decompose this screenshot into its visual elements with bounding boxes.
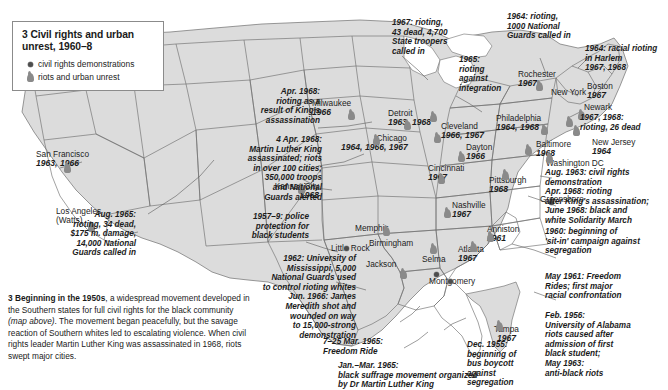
city-name-little-rock: Little Rock <box>331 244 369 253</box>
marker-cincinnati <box>438 170 445 188</box>
legend-item-demonstrations: civil rights demonstrations <box>22 59 154 69</box>
city-years-dayton: 1966 <box>466 151 485 161</box>
figure-caption: 3 Beginning in the 1950s, a widespread m… <box>8 293 254 363</box>
city-years-boston: 1967 <box>587 90 606 100</box>
marker-selma <box>434 263 439 281</box>
city-label-philadelphia: Philadelphia 1964, 1968 <box>496 114 541 133</box>
marker-new-york <box>566 113 573 131</box>
city-years-rochester: 1967 <box>518 78 537 88</box>
city-label-baltimore: Baltimore 1968 <box>536 140 571 159</box>
city-years-new-jersey: 1964 <box>592 146 611 156</box>
city-years-pittsburgh: 1968 <box>489 184 508 194</box>
marker-chicago <box>373 131 380 149</box>
marker-san-francisco <box>64 159 71 177</box>
annotation-mississippi-university: 1962: University of Mississippi, 5,000 N… <box>244 254 356 340</box>
annotation-alabama-university: Feb. 1956: University of Alabama riots c… <box>545 311 661 378</box>
annotation-sit-in-campaign: 1960: beginning of 'sit-in' campaign aga… <box>545 227 667 256</box>
annotation-detroit-riot: 1967: rioting, 43 dead, 4,700 State troo… <box>392 18 492 56</box>
legend-title: 3 Civil rights and urban unrest, 1960–8 <box>22 29 154 53</box>
legend-item-riots: riots and urban unrest <box>22 72 154 82</box>
city-label-washington-dc: Washington DC <box>546 159 604 168</box>
city-years-san-francisco: 1963, 1966 <box>36 158 79 168</box>
annotation-rochester-riot: 1964: rioting, 1000 National Guards call… <box>507 12 605 41</box>
city-label-new-jersey: New Jersey 1964 <box>592 138 635 157</box>
caption-lead: Beginning in the 1950s <box>15 293 105 303</box>
legend-label-demonstrations: civil rights demonstrations <box>38 59 134 69</box>
marker-montgomery <box>448 270 453 288</box>
city-label-nashville: Nashville 1967 <box>452 201 486 220</box>
city-years-nashville: 1967 <box>452 209 471 219</box>
marker-anniston <box>487 228 494 246</box>
caption-number: 3 <box>8 293 13 303</box>
marker-detroit <box>404 116 411 134</box>
marker-little-rock <box>344 237 349 255</box>
marker-nashville <box>444 204 451 222</box>
city-label-newark: Newark <box>584 103 612 112</box>
annotation-washington-dc: Aug. 1963: civil rights demonstration Ap… <box>545 168 668 226</box>
city-label-dayton: Dayton 1966 <box>466 143 492 162</box>
map-legend: 3 Civil rights and urban unrest, 1960–8 … <box>12 21 164 91</box>
marker-milwaukee <box>348 106 355 124</box>
city-label-new-york: New York <box>551 88 586 97</box>
city-years-philadelphia: 1964, 1968 <box>496 122 539 132</box>
marker-cleveland <box>434 129 441 147</box>
marker-rochester <box>536 77 543 95</box>
annotation-los-angeles: Aug. 1965: rioting, 34 dead, $175 m. dam… <box>26 210 136 258</box>
marker-philadelphia <box>541 121 548 139</box>
city-name-birmingham: Birmingham <box>369 239 413 248</box>
caption-italic: (map above) <box>8 316 55 326</box>
city-years-cleveland: 1966, 1967 <box>441 130 484 140</box>
marker-atlanta <box>470 238 477 256</box>
marker-detroit-2 <box>430 108 437 126</box>
city-label-jackson: Jackson <box>366 260 396 269</box>
city-label-cleveland: Cleveland 1966, 1967 <box>441 122 484 141</box>
annotation-freedom-ride-march: 7–25 Mar. 1965: Freedom Ride <box>323 337 421 356</box>
annotation-king-assassination: 4 Apr. 1968: Martin Luther King assassin… <box>212 135 322 202</box>
marker-pittsburgh <box>502 166 509 184</box>
marker-memphis <box>383 222 390 240</box>
city-label-birmingham: Birmingham <box>369 239 413 248</box>
flame-marker-icon <box>22 73 38 82</box>
legend-label-riots: riots and urban unrest <box>38 72 119 82</box>
annotation-integration-riot: 1965: rioting against integration <box>459 55 519 93</box>
annotation-king-riots-west: Apr. 1968: rioting as a result of King's… <box>228 87 320 125</box>
marker-washington-dc <box>546 149 553 167</box>
city-label-cincinnati: Cincinnati 1967 <box>428 164 464 183</box>
annotation-little-rock: 1957–9: police protection for black stud… <box>221 212 309 241</box>
marker-dayton <box>458 148 465 166</box>
city-name-washington-dc: Washington DC <box>546 159 604 168</box>
marker-newark <box>573 122 580 140</box>
annotation-harlem-riot: 1964: racial rioting in Harlem 1967, 196… <box>585 44 668 73</box>
marker-tampa <box>496 317 503 335</box>
city-name-jackson: Jackson <box>366 260 396 269</box>
city-label-little-rock: Little Rock <box>331 244 369 253</box>
annotation-bus-boycott: Dec. 1955: beginning of bus boycott agai… <box>467 340 537 388</box>
city-label-boston: Boston 1967 <box>587 82 613 101</box>
annotation-freedom-rides: May 1961: Freedom Rides; first major rac… <box>545 272 657 301</box>
marker-birmingham <box>430 240 437 258</box>
marker-baltimore <box>525 141 532 159</box>
dot-marker-icon <box>22 62 38 67</box>
city-name-newark: Newark <box>584 103 612 112</box>
city-name-new-york: New York <box>551 88 586 97</box>
city-label-san-francisco: San Francisco 1963, 1966 <box>36 150 89 169</box>
annotation-newark-riot: 1967, 1968: rioting, 26 dead <box>580 113 668 132</box>
marker-jackson <box>400 265 407 283</box>
